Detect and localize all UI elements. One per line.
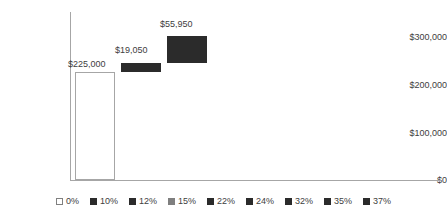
chart-legend: 0% 10% 12% 15% 22% 24% 32% 35% [0, 196, 447, 206]
legend-swatch-icon [207, 198, 214, 205]
waterfall-chart: $300,000 $200,000 $100,000 $0 $225,000 $… [0, 0, 447, 219]
legend-label: 35% [334, 196, 352, 206]
legend-item-4[interactable]: 22% [207, 196, 235, 206]
legend-item-5[interactable]: 24% [246, 196, 274, 206]
legend-item-2[interactable]: 12% [129, 196, 157, 206]
legend-item-3[interactable]: 15% [168, 196, 196, 206]
legend-item-8[interactable]: 37% [363, 196, 391, 206]
legend-swatch-icon [285, 198, 292, 205]
legend-label: 22% [217, 196, 235, 206]
y-axis-line [70, 12, 71, 180]
bar-label-1: $19,050 [115, 45, 148, 55]
legend-item-7[interactable]: 35% [324, 196, 352, 206]
legend-item-1[interactable]: 10% [90, 196, 118, 206]
legend-swatch-icon [246, 198, 253, 205]
legend-label: 37% [373, 196, 391, 206]
bar-segment-1[interactable] [121, 63, 161, 72]
legend-label: 0% [66, 196, 79, 206]
legend-label: 24% [256, 196, 274, 206]
bar-segment-0[interactable] [75, 72, 115, 180]
bar-label-0: $225,000 [68, 59, 106, 69]
bar-segment-2[interactable] [167, 36, 207, 63]
legend-label: 12% [139, 196, 157, 206]
legend-swatch-icon [168, 198, 175, 205]
legend-swatch-icon [324, 198, 331, 205]
legend-swatch-icon [129, 198, 136, 205]
legend-label: 10% [100, 196, 118, 206]
bar-label-2: $55,950 [160, 19, 193, 29]
legend-swatch-icon [363, 198, 370, 205]
y-tick-label-200000: $200,000 [385, 80, 447, 90]
plot-area: $300,000 $200,000 $100,000 $0 $225,000 $… [0, 0, 447, 219]
legend-item-0[interactable]: 0% [56, 196, 79, 206]
y-tick-label-100000: $100,000 [385, 128, 447, 138]
legend-swatch-icon [90, 198, 97, 205]
x-axis-line [70, 180, 441, 181]
legend-label: 15% [178, 196, 196, 206]
legend-swatch-icon [56, 198, 63, 205]
legend-label: 32% [295, 196, 313, 206]
legend-item-6[interactable]: 32% [285, 196, 313, 206]
y-tick-label-300000: $300,000 [385, 32, 447, 42]
